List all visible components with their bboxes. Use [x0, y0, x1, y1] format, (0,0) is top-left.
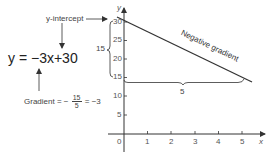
y-tick-30: 30	[113, 18, 122, 26]
x-tick-3: 3	[193, 138, 197, 146]
y-intercept-label: y-intercept	[46, 15, 83, 23]
run-label: 5	[180, 88, 184, 96]
x-tick-4: 4	[216, 138, 220, 146]
y-tick-5: 5	[117, 111, 121, 119]
equation: y = −3x+30	[8, 51, 78, 65]
rise-label: 15	[96, 45, 105, 53]
gradient-formula: Gradient = − 15 5 = −3	[24, 94, 101, 109]
gradient-prefix: Gradient = −	[24, 97, 68, 106]
y-axis-name: y	[117, 4, 121, 12]
gradient-numerator: 15	[72, 94, 82, 102]
x-axis-name: x	[259, 138, 263, 146]
gradient-line	[117, 17, 252, 82]
run-brace	[124, 79, 244, 85]
rise-brace	[107, 21, 113, 77]
x-tick-0: 0	[117, 138, 121, 146]
y-tick-10: 10	[113, 92, 122, 100]
x-tick-2: 2	[169, 138, 173, 146]
x-tick-5: 5	[240, 138, 244, 146]
gradient-denominator: 5	[72, 102, 82, 109]
diagram-graphics	[0, 0, 270, 154]
gradient-diagram: y = −3x+30 y-intercept Gradient = − 15 5…	[0, 0, 270, 154]
y-tick-15: 15	[113, 73, 122, 81]
gradient-result: = −3	[85, 97, 101, 106]
y-tick-25: 25	[113, 36, 122, 44]
y-tick-20: 20	[113, 55, 122, 63]
x-tick-1: 1	[145, 138, 149, 146]
gradient-fraction: 15 5	[72, 94, 82, 109]
